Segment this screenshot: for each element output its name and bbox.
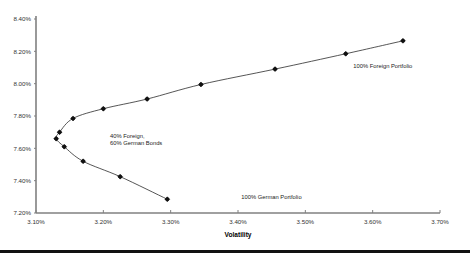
y-axis-tick-label: 7.40% <box>13 177 31 184</box>
x-axis-tick-label: 3.70% <box>431 218 449 225</box>
y-axis-tick-label: 8.40% <box>13 15 31 22</box>
x-axis-tick-label: 3.10% <box>27 218 45 225</box>
footer-divider-rule <box>0 250 470 253</box>
data-point-marker <box>81 159 86 164</box>
data-point-marker <box>273 67 278 72</box>
y-axis-tick-label: 7.80% <box>13 112 31 119</box>
data-point-marker <box>118 174 123 179</box>
data-point-marker <box>101 106 106 111</box>
y-axis-tick-label: 7.20% <box>13 209 31 216</box>
x-axis-tick-label: 3.20% <box>95 218 113 225</box>
x-axis-title: Volatility <box>225 231 252 239</box>
annotation-mix-line2: 60% German Bonds <box>110 140 162 146</box>
data-point-marker <box>54 136 59 141</box>
data-point-marker <box>400 38 405 43</box>
data-point-marker <box>165 197 170 202</box>
y-axis-tick-label: 8.20% <box>13 48 31 55</box>
annotation-foreign-portfolio: 100% Foreign Portfolio <box>353 63 412 69</box>
chart-canvas: 7.20%7.40%7.60%7.80%8.00%8.20%8.40%3.10%… <box>0 0 470 257</box>
y-axis-tick-label: 8.00% <box>13 80 31 87</box>
frontier-curve <box>56 41 403 199</box>
data-point-marker <box>343 51 348 56</box>
x-axis-tick-label: 3.40% <box>229 218 247 225</box>
data-point-marker <box>71 116 76 121</box>
data-point-marker <box>198 82 203 87</box>
data-point-marker <box>145 97 150 102</box>
y-axis-tick-label: 7.60% <box>13 145 31 152</box>
x-axis-tick-label: 3.60% <box>364 218 382 225</box>
annotation-mix-line1: 40% Foreign, <box>110 133 145 139</box>
x-axis-tick-label: 3.50% <box>297 218 315 225</box>
x-axis-tick-label: 3.30% <box>162 218 180 225</box>
annotation-german-portfolio: 100% German Portfolio <box>241 194 301 200</box>
efficient-frontier-chart: 7.20%7.40%7.60%7.80%8.00%8.20%8.40%3.10%… <box>0 0 470 257</box>
